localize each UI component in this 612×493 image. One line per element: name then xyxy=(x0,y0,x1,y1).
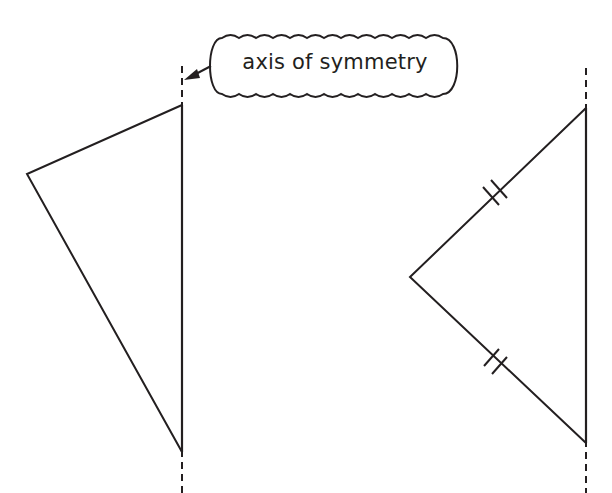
left-triangle xyxy=(27,105,182,452)
symmetry-diagram: axis of symmetry xyxy=(0,0,612,493)
callout-label: axis of symmetry xyxy=(214,44,456,80)
arrowhead-icon xyxy=(184,69,200,80)
equal-side-marks-upper xyxy=(483,180,507,205)
right-triangle xyxy=(410,108,586,443)
equal-side-marks-lower xyxy=(484,349,507,374)
